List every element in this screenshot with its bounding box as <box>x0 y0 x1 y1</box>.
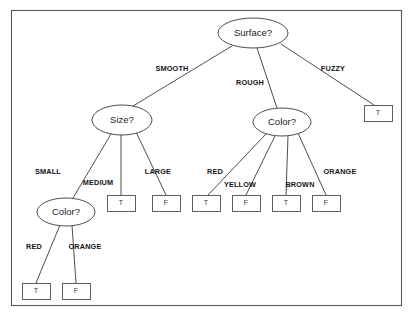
decision-node-label-color_rough: Color? <box>268 116 296 127</box>
leaf-node-leaf_yellow[interactable]: F <box>233 196 261 212</box>
decision-node-color_small[interactable]: Color? <box>37 198 95 226</box>
decision-node-label-color_small: Color? <box>52 206 80 217</box>
leaf-node-leaf_red_small[interactable]: T <box>23 284 51 300</box>
edge-label-large-5: LARGE <box>145 167 171 176</box>
leaf-node-leaf_orange_small[interactable]: F <box>63 284 91 300</box>
decision-tree-figure: Surface?Size?Color?Color? TTFTFTFTF SMOO… <box>0 0 413 317</box>
leaf-node-label-leaf_red_small: T <box>34 287 39 294</box>
edge-label-brown-8: BROWN <box>285 180 314 189</box>
edge-label-red-10: RED <box>26 242 42 251</box>
leaf-node-leaf_red_rough[interactable]: T <box>193 196 221 212</box>
decision-node-size[interactable]: Size? <box>92 105 152 135</box>
leaf-node-leaf_orange_rough[interactable]: F <box>313 196 341 212</box>
edge-label-fuzzy-2: FUZZY <box>321 64 345 73</box>
decision-node-label-size: Size? <box>110 114 134 125</box>
leaf-node-label-leaf_fuzzy: T <box>376 109 381 116</box>
leaf-node-label-leaf_large: F <box>164 199 168 206</box>
leaf-node-label-leaf_red_rough: T <box>204 199 209 206</box>
leaf-node-label-leaf_brown: T <box>284 199 289 206</box>
leaf-node-leaf_brown[interactable]: T <box>273 196 301 212</box>
edge-label-small-3: SMALL <box>35 167 61 176</box>
edge-label-red-6: RED <box>207 167 223 176</box>
edge-label-orange-11: ORANGE <box>69 242 102 251</box>
edge-label-medium-4: MEDIUM <box>83 178 114 187</box>
decision-node-color_rough[interactable]: Color? <box>253 108 311 136</box>
leaf-node-label-leaf_orange_small: F <box>74 287 78 294</box>
leaf-node-label-leaf_medium: T <box>119 199 124 206</box>
decision-tree-canvas: Surface?Size?Color?Color? TTFTFTFTF SMOO… <box>0 0 413 317</box>
edge-label-smooth-0: SMOOTH <box>156 64 189 73</box>
edge-label-rough-1: ROUGH <box>236 78 264 87</box>
leaf-node-leaf_large[interactable]: F <box>153 196 181 212</box>
leaf-node-label-leaf_orange_rough: F <box>324 199 328 206</box>
decision-node-label-surface: Surface? <box>234 27 272 38</box>
leaf-node-leaf_medium[interactable]: T <box>108 196 136 212</box>
edge-label-yellow-7: YELLOW <box>224 180 256 189</box>
leaf-node-label-leaf_yellow: F <box>244 199 248 206</box>
leaf-node-leaf_fuzzy[interactable]: T <box>365 106 393 122</box>
figure-border <box>12 11 402 306</box>
edge-label-orange-9: ORANGE <box>324 167 357 176</box>
decision-node-surface[interactable]: Surface? <box>218 18 288 48</box>
